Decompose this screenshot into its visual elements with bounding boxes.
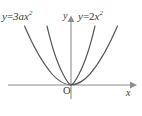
- x-axis-label: x: [126, 88, 130, 98]
- origin-label: O: [63, 86, 71, 97]
- x-axis-arrow-icon: [130, 82, 137, 89]
- curve-label-right-exponent: 2: [100, 9, 103, 16]
- curve-label-left: y=3ax2: [2, 10, 32, 22]
- y-axis-arrow-icon: [68, 16, 75, 23]
- y-axis-label: y: [63, 11, 67, 21]
- curve-label-left-exponent: 2: [29, 9, 32, 16]
- curve-label-left-coefficient: 3a: [13, 10, 24, 22]
- y-axis-label-text: y: [63, 10, 67, 21]
- curve-label-right: y=2x2: [78, 10, 103, 22]
- parabola-figure: y=3ax2 y=2x2 y x O: [0, 0, 142, 116]
- x-axis-label-text: x: [126, 87, 130, 98]
